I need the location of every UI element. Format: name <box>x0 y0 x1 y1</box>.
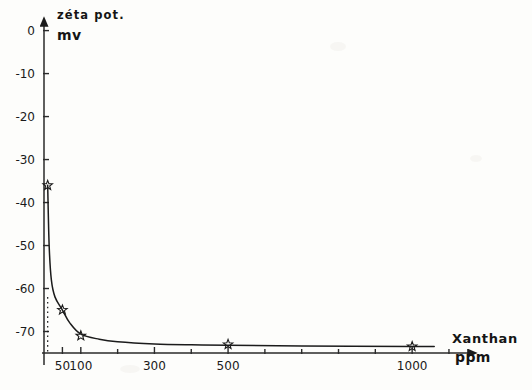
x-tick-label: 100 <box>69 359 92 373</box>
x-tick-label: 50 <box>55 359 70 373</box>
x-axis-unit: ppm <box>455 349 491 365</box>
x-tick-label: 1000 <box>397 359 428 373</box>
y-axis-unit: mv <box>57 27 82 43</box>
y-tick-label: -70 <box>0 325 35 339</box>
x-tick-label: 300 <box>143 359 166 373</box>
data-curve <box>48 185 435 346</box>
y-tick-label: -20 <box>0 110 35 124</box>
data-point-marker <box>223 339 233 348</box>
y-tick-label: -30 <box>0 153 35 167</box>
chart-figure: zéta pot. mv Xanthan ppm 0-10-20-30-40-5… <box>0 0 532 390</box>
y-tick-label: 0 <box>0 24 35 38</box>
y-axis-title: zéta pot. <box>57 8 125 22</box>
x-tick-label: 500 <box>217 359 240 373</box>
y-tick-label: -10 <box>0 67 35 81</box>
y-tick-label: -50 <box>0 239 35 253</box>
x-axis-title: Xanthan <box>452 331 518 346</box>
y-tick-label: -60 <box>0 282 35 296</box>
y-tick-label: -40 <box>0 196 35 210</box>
data-point-markers <box>43 180 417 350</box>
